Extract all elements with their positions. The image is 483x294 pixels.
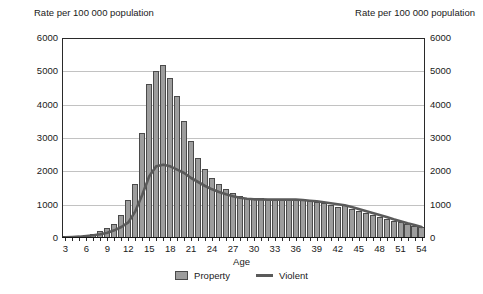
legend-item-property: Property xyxy=(175,270,230,281)
y-tick-right-2000: 2000 xyxy=(430,166,476,176)
x-tick-50 xyxy=(394,238,395,241)
x-tick-41 xyxy=(331,238,332,241)
x-tick-20 xyxy=(184,238,185,241)
x-tick-7 xyxy=(93,238,94,241)
x-tick-19 xyxy=(177,238,178,241)
chart-legend: Property Violent xyxy=(0,270,483,281)
x-tick-31 xyxy=(261,238,262,241)
y-tick-right-3000: 3000 xyxy=(430,133,476,143)
y-tick-left-1000: 1000 xyxy=(14,200,58,210)
y-tick-left-3000: 3000 xyxy=(14,133,58,143)
x-tick-17 xyxy=(163,238,164,241)
x-tick-12 xyxy=(128,238,129,241)
x-tick-14 xyxy=(142,238,143,241)
x-tick-27 xyxy=(233,238,234,241)
y-tick-right-5000: 5000 xyxy=(430,66,476,76)
x-tick-30 xyxy=(254,238,255,241)
y-tick-left-0: 0 xyxy=(14,233,58,243)
x-tick-28 xyxy=(240,238,241,241)
x-tick-8 xyxy=(100,238,101,241)
x-tick-38 xyxy=(310,238,311,241)
y-tick-right-0: 0 xyxy=(430,233,476,243)
x-tick-49 xyxy=(387,238,388,241)
x-tick-11 xyxy=(121,238,122,241)
x-tick-10 xyxy=(114,238,115,241)
x-tick-6 xyxy=(86,238,87,241)
x-tick-26 xyxy=(226,238,227,241)
x-tick-39 xyxy=(317,238,318,241)
x-tick-32 xyxy=(268,238,269,241)
x-tick-37 xyxy=(303,238,304,241)
x-tick-47 xyxy=(373,238,374,241)
x-tick-51 xyxy=(401,238,402,241)
x-tick-42 xyxy=(338,238,339,241)
x-tick-34 xyxy=(282,238,283,241)
x-tick-23 xyxy=(205,238,206,241)
x-tick-25 xyxy=(219,238,220,241)
x-tick-43 xyxy=(345,238,346,241)
x-tick-52 xyxy=(408,238,409,241)
x-tick-35 xyxy=(289,238,290,241)
x-tick-45 xyxy=(359,238,360,241)
plot-area xyxy=(62,38,425,238)
legend-item-violent: Violent xyxy=(256,270,308,281)
property-swatch-icon xyxy=(175,271,188,280)
x-tick-24 xyxy=(212,238,213,241)
x-tick-22 xyxy=(198,238,199,241)
plot-frame xyxy=(62,38,425,238)
x-tick-16 xyxy=(156,238,157,241)
x-tick-15 xyxy=(149,238,150,241)
legend-label-violent: Violent xyxy=(279,270,308,281)
y-tick-left-5000: 5000 xyxy=(14,66,58,76)
legend-label-property: Property xyxy=(194,270,230,281)
x-tick-5 xyxy=(79,238,80,241)
y-tick-left-6000: 6000 xyxy=(14,33,58,43)
x-tick-3 xyxy=(65,238,66,241)
x-tick-53 xyxy=(415,238,416,241)
x-tick-48 xyxy=(380,238,381,241)
x-axis-label: Age xyxy=(0,256,483,267)
chart-figure: Rate per 100 000 population Rate per 100… xyxy=(0,0,483,294)
x-tick-18 xyxy=(170,238,171,241)
x-tick-21 xyxy=(191,238,192,241)
x-tick-13 xyxy=(135,238,136,241)
x-tick-label-54: 54 xyxy=(410,243,434,254)
y-tick-right-6000: 6000 xyxy=(430,33,476,43)
x-tick-29 xyxy=(247,238,248,241)
left-axis-title: Rate per 100 000 population xyxy=(34,7,154,18)
right-axis-title: Rate per 100 000 population xyxy=(355,7,475,18)
y-tick-left-4000: 4000 xyxy=(14,100,58,110)
x-tick-4 xyxy=(72,238,73,241)
x-tick-33 xyxy=(275,238,276,241)
x-tick-44 xyxy=(352,238,353,241)
violent-swatch-icon xyxy=(256,274,273,277)
y-tick-right-1000: 1000 xyxy=(430,200,476,210)
x-tick-46 xyxy=(366,238,367,241)
x-tick-40 xyxy=(324,238,325,241)
x-tick-54 xyxy=(422,238,423,241)
y-tick-right-4000: 4000 xyxy=(430,100,476,110)
y-tick-left-2000: 2000 xyxy=(14,166,58,176)
x-tick-36 xyxy=(296,238,297,241)
x-tick-9 xyxy=(107,238,108,241)
